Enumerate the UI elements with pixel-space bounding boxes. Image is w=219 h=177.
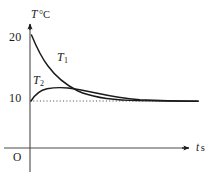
curve-label-T2-subscript: 2 <box>40 79 44 88</box>
y-tick-label-20: 20 <box>9 31 21 43</box>
y-axis-title: T°C <box>31 9 50 21</box>
curve-T1 <box>32 35 199 101</box>
x-axis-title: ts <box>196 142 205 154</box>
curve-label-T1-base: T <box>57 50 64 64</box>
temperature-vs-time-chart: T°C 20 10 T1 T2 ts O <box>0 0 219 177</box>
chart-plot-area <box>0 0 219 177</box>
curve-label-T2-base: T <box>33 73 40 87</box>
y-tick-label-10: 10 <box>9 92 21 104</box>
y-axis-quantity: T <box>31 8 37 20</box>
curve-label-T2: T2 <box>33 74 44 86</box>
origin-label: O <box>13 152 21 164</box>
y-axis-unit: °C <box>39 9 50 20</box>
curve-label-T1: T1 <box>57 51 68 63</box>
x-axis-quantity: t <box>196 141 199 153</box>
x-axis-unit: s <box>201 142 205 153</box>
curve-label-T1-subscript: 1 <box>64 56 68 65</box>
